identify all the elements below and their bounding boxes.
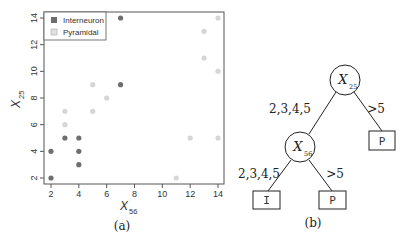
data-point-pyramidal: [215, 69, 220, 74]
y-tick-label: 8: [29, 95, 39, 100]
data-point-interneuron: [76, 162, 81, 167]
decision-tree-panel: X 25 X 56 2,3,4,5 >5 2,3,4,5 >5 P I: [238, 65, 395, 230]
legend-swatch-pyramidal: [51, 29, 57, 35]
y-tick-label: 4: [29, 149, 39, 154]
data-point-interneuron: [48, 149, 53, 154]
edge-label-inner-right: >5: [326, 167, 344, 181]
legend: Interneuron Pyramidal: [44, 12, 106, 40]
data-point-interneuron: [62, 135, 67, 140]
data-point-pyramidal: [201, 29, 206, 34]
data-point-pyramidal: [62, 122, 67, 127]
legend-label-pyramidal: Pyramidal: [63, 28, 99, 37]
figure: 2468101214 2468101214 Interneuron Pyrami…: [0, 0, 408, 240]
edge-root-left: [309, 92, 336, 134]
leaf-label: P: [379, 135, 386, 148]
x-tick-label: 14: [213, 189, 223, 199]
data-point-pyramidal: [215, 135, 220, 140]
x-tick-label: 4: [76, 189, 81, 199]
legend-swatch-interneuron: [51, 17, 57, 23]
tree-leaf-right-top: P: [369, 131, 395, 150]
root-node-label: X: [337, 72, 348, 87]
y-axis-label-subscript: 25: [17, 91, 26, 99]
y-tick-label: 14: [29, 13, 39, 23]
x-tick-label: 10: [157, 189, 167, 199]
data-point-pyramidal: [90, 109, 95, 114]
scatter-plot-panel: 2468101214 2468101214 Interneuron Pyrami…: [9, 12, 224, 233]
tree-node-inner: X 56: [285, 132, 315, 162]
inner-node-label: X: [292, 139, 303, 154]
edge-label-inner-left: 2,3,4,5: [238, 167, 280, 181]
legend-label-interneuron: Interneuron: [63, 16, 104, 25]
data-point-pyramidal: [174, 175, 179, 180]
x-axis-label-subscript: 56: [129, 207, 137, 216]
tree-leaf-inner-left: I: [253, 191, 280, 209]
x-tick-label: 6: [104, 189, 109, 199]
data-point-pyramidal: [62, 109, 67, 114]
caption-b: (b): [304, 216, 321, 230]
data-point-pyramidal: [104, 95, 109, 100]
inner-node-subscript: 56: [304, 150, 312, 158]
data-point-interneuron: [76, 135, 81, 140]
y-tick-label: 10: [29, 66, 39, 76]
figure-svg: 2468101214 2468101214 Interneuron Pyrami…: [0, 0, 408, 240]
leaf-label: I: [263, 194, 270, 207]
x-tick-label: 12: [185, 189, 195, 199]
data-point-interneuron: [48, 175, 53, 180]
data-point-pyramidal: [90, 82, 95, 87]
data-point-pyramidal: [215, 15, 220, 20]
tree-node-root: X 25: [330, 65, 360, 95]
y-axis-ticks: 2468101214: [29, 13, 44, 181]
leaf-label: P: [329, 194, 336, 207]
y-tick-label: 12: [29, 40, 39, 50]
x-tick-label: 8: [132, 189, 137, 199]
x-axis-label: X: [119, 199, 129, 213]
y-axis-label: X: [9, 99, 23, 109]
data-point-pyramidal: [188, 135, 193, 140]
edge-label-root-left: 2,3,4,5: [269, 102, 311, 116]
data-point-interneuron: [76, 149, 81, 154]
data-point-interneuron: [118, 15, 123, 20]
data-point-pyramidal: [201, 55, 206, 60]
data-point-interneuron: [118, 82, 123, 87]
x-tick-label: 2: [48, 189, 53, 199]
caption-a: (a): [114, 219, 131, 233]
edge-label-root-right: >5: [367, 102, 385, 116]
root-node-subscript: 25: [349, 83, 357, 91]
y-axis-label-group: X 25: [9, 91, 26, 109]
x-axis-ticks: 2468101214: [48, 184, 223, 199]
y-tick-label: 6: [29, 122, 39, 127]
tree-leaf-inner-right: P: [319, 191, 346, 209]
y-tick-label: 2: [29, 175, 39, 180]
